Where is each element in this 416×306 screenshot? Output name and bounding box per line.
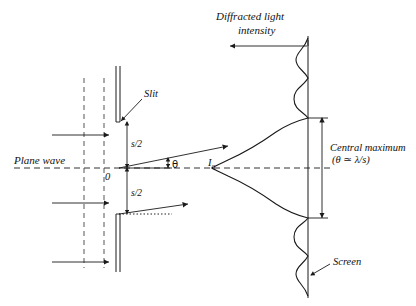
- half-width-label-upper: s/2: [131, 139, 142, 149]
- intensity-title-line1: Diffracted light: [215, 10, 285, 22]
- diffracted-ray-lower: [119, 204, 188, 214]
- origin-label: 0: [105, 171, 111, 182]
- screen-label: Screen: [333, 256, 361, 267]
- slit-label: Slit: [144, 88, 159, 99]
- diagram-canvas: Slit s/2 s/2 0 θ I0 Diffracted light int…: [0, 0, 416, 306]
- angle-theta-label: θ: [172, 159, 178, 170]
- intensity-curve: [212, 38, 308, 296]
- central-max-label: (θ ≃ λ/s): [332, 154, 370, 166]
- plane-wave-label: Plane wave: [13, 154, 65, 166]
- intensity-title-line2: intensity: [238, 24, 275, 36]
- slit-leader-line: [121, 99, 142, 121]
- half-width-label-lower: s/2: [131, 188, 142, 198]
- central-maximum-caption: Central maximum: [330, 142, 406, 153]
- diffraction-figure: Slit s/2 s/2 0 θ I0 Diffracted light int…: [0, 0, 416, 306]
- screen-leader-line: [311, 264, 330, 275]
